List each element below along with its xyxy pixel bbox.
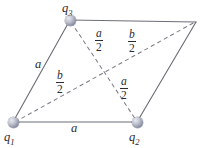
- charge-label-q1: q1: [4, 131, 15, 146]
- edge-right-side: [137, 22, 196, 122]
- half-a-upper-denominator: 2: [95, 42, 103, 54]
- length-label-half-b-upper: b 2: [128, 29, 136, 54]
- length-label-half-b-lower: b 2: [56, 70, 64, 95]
- half-a-upper-numerator: a: [95, 28, 103, 40]
- charge-node-q2: [132, 117, 143, 128]
- length-label-half-a-lower: a 2: [120, 76, 128, 101]
- length-label-half-a-upper: a 2: [95, 28, 103, 53]
- charge-label-q2: q2: [129, 131, 140, 146]
- physics-figure: q1 q2 q3 a a a 2 b 2 b 2 a 2: [0, 0, 203, 148]
- charge-label-q3-sub: 3: [68, 8, 72, 18]
- figure-canvas: [0, 0, 203, 148]
- edge-top-side: [70, 20, 196, 22]
- diagonal-q3-q2: [71, 22, 136, 120]
- charge-label-q2-sub: 2: [135, 137, 139, 147]
- half-b-upper-denominator: 2: [128, 43, 136, 55]
- charge-label-q1-sub: 1: [10, 137, 14, 147]
- charge-node-q1: [8, 117, 19, 128]
- half-b-upper-numerator: b: [128, 29, 136, 41]
- half-b-lower-denominator: 2: [56, 84, 64, 96]
- length-label-a-bottom: a: [71, 122, 77, 135]
- half-b-lower-numerator: b: [56, 70, 64, 82]
- half-a-lower-numerator: a: [120, 76, 128, 88]
- diagonal-q1-corner: [15, 22, 195, 122]
- half-a-lower-denominator: 2: [120, 90, 128, 102]
- length-label-a-left: a: [35, 58, 41, 71]
- charge-label-q3: q3: [62, 2, 73, 17]
